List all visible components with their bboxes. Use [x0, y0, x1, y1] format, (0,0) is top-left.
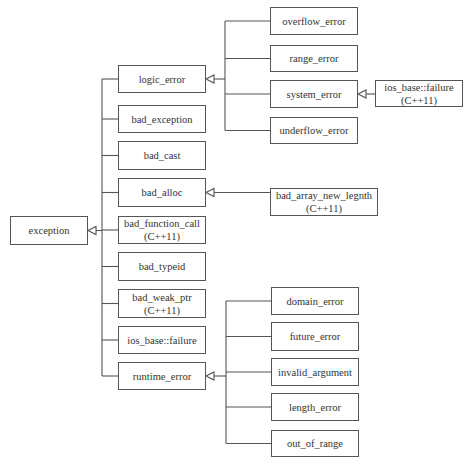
class-box-bad-function-call: bad_function_call(C++11) [118, 216, 206, 244]
class-name: overflow_error [282, 15, 346, 28]
class-name: runtime_error [133, 370, 191, 383]
class-box-bad-exception: bad_exception [118, 105, 206, 133]
class-name: out_of_range [287, 437, 343, 450]
class-name: bad_function_call [124, 217, 200, 230]
class-name: bad_weak_ptr [132, 291, 191, 304]
class-name: exception [29, 224, 70, 237]
class-name: ios_base::failure [127, 334, 196, 347]
class-box-bad-typeid: bad_typeid [118, 252, 206, 281]
class-name: range_error [290, 52, 339, 65]
class-box-domain-error: domain_error [271, 287, 359, 315]
class-name: underflow_error [280, 124, 349, 137]
class-standard-tag: (C++11) [144, 230, 180, 243]
inheritance-arrow-bad-alloc [206, 189, 214, 197]
inheritance-arrow-runtime-error [206, 372, 214, 380]
class-standard-tag: (C++11) [306, 202, 342, 215]
class-box-bad-cast: bad_cast [118, 141, 206, 170]
class-box-invalid-argument: invalid_argument [271, 358, 359, 386]
class-box-range-error: range_error [270, 45, 358, 72]
inheritance-arrow-logic-error [206, 75, 214, 83]
class-box-overflow-error: overflow_error [270, 7, 358, 35]
class-box-ios-base-failure: ios_base::failure [118, 326, 206, 354]
class-name: bad_cast [144, 149, 181, 162]
class-name: bad_exception [131, 113, 192, 126]
class-box-bad-alloc: bad_alloc [118, 178, 206, 207]
class-standard-tag: (C++11) [144, 304, 180, 317]
class-name: domain_error [286, 295, 343, 308]
class-box-system-error: system_error [270, 80, 358, 108]
class-box-ios-base-failure-cpp11: ios_base::failure(C++11) [375, 80, 463, 107]
class-box-length-error: length_error [271, 393, 359, 421]
class-box-future-error: future_error [271, 322, 359, 351]
class-name: bad_array_new_legnth [276, 189, 372, 202]
class-name: logic_error [139, 73, 186, 86]
class-name: ios_base::failure [384, 81, 453, 94]
class-box-bad-weak-ptr: bad_weak_ptr(C++11) [118, 289, 206, 318]
class-box-underflow-error: underflow_error [270, 117, 358, 144]
class-name: bad_typeid [139, 260, 186, 273]
class-box-bad-array-new-length: bad_array_new_legnth(C++11) [270, 188, 378, 216]
class-name: invalid_argument [278, 366, 352, 379]
class-box-logic-error: logic_error [118, 65, 206, 93]
class-name: length_error [289, 401, 341, 414]
exception-hierarchy-diagram: exceptionlogic_errorbad_exceptionbad_cas… [0, 0, 470, 464]
class-box-exception: exception [10, 216, 88, 245]
class-name: future_error [290, 330, 341, 343]
class-box-runtime-error: runtime_error [118, 362, 206, 390]
class-name: bad_alloc [142, 186, 183, 199]
class-name: system_error [287, 88, 342, 101]
inheritance-arrow-system-error [358, 90, 366, 98]
inheritance-arrow-exception [88, 227, 96, 235]
class-box-out-of-range: out_of_range [271, 430, 359, 457]
class-standard-tag: (C++11) [401, 94, 437, 107]
